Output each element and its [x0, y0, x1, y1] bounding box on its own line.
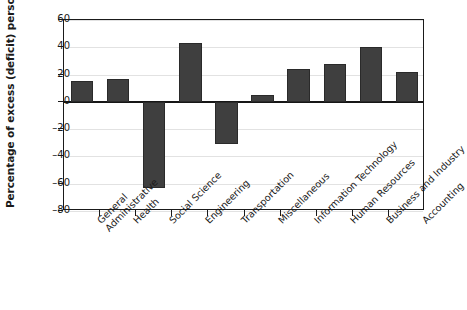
x-axis-label: Business and Industry	[384, 218, 392, 226]
y-tick-mark	[58, 74, 63, 75]
bar	[107, 79, 129, 102]
x-axis-label: Information Technology	[312, 218, 320, 226]
y-tick-label: –60	[36, 178, 70, 188]
bar	[215, 102, 237, 144]
x-axis-label: Human Resources	[348, 218, 356, 226]
bar	[287, 69, 309, 102]
x-axis-label: Transportation	[239, 218, 247, 226]
y-tick-label: –20	[36, 123, 70, 133]
y-tick-mark	[58, 210, 63, 211]
x-axis-label: Accounting	[420, 218, 428, 226]
y-tick-label: 60	[36, 14, 70, 24]
x-axis-label: GeneralAdministrative	[95, 218, 111, 234]
y-tick-mark	[58, 101, 63, 102]
gridline	[64, 156, 423, 157]
bar	[396, 72, 418, 102]
bar	[360, 47, 382, 102]
y-tick-mark	[58, 183, 63, 184]
x-axis-label: Engineering	[203, 218, 211, 226]
bar	[179, 43, 201, 102]
y-tick-label: –80	[36, 205, 70, 215]
bar	[71, 81, 93, 101]
y-tick-mark	[58, 128, 63, 129]
gridline	[64, 20, 423, 21]
x-axis-label-line: Administrative	[103, 226, 111, 234]
x-axis-label: Social Science	[167, 218, 175, 226]
y-tick-mark	[58, 155, 63, 156]
x-axis-label: Health	[131, 218, 139, 226]
y-tick-mark	[58, 19, 63, 20]
y-tick-label: 40	[36, 41, 70, 51]
y-tick-label: 20	[36, 69, 70, 79]
bar	[143, 102, 165, 188]
y-tick-label: –40	[36, 150, 70, 160]
gridline	[64, 129, 423, 130]
y-tick-mark	[58, 46, 63, 47]
x-axis-label: Miscellaneous	[276, 218, 284, 226]
bar	[251, 95, 273, 102]
y-axis-title: Percentage of excess (deficit) personnel	[2, 8, 18, 208]
y-tick-label: 0	[36, 96, 70, 106]
bar	[324, 64, 346, 102]
